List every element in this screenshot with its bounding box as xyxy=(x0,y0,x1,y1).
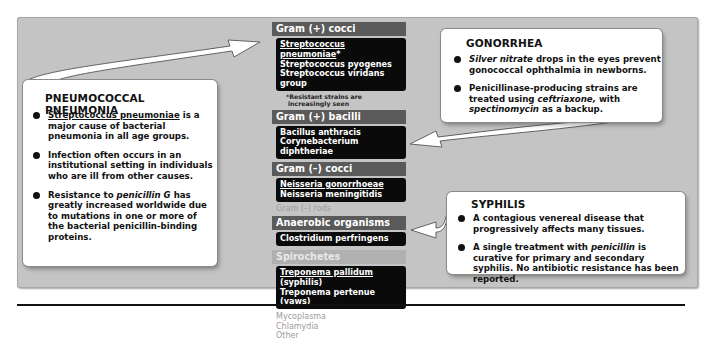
bottom-rule xyxy=(17,304,685,306)
group-header-gram-neg-cocci: Gram (–) cocci xyxy=(272,162,406,176)
organism-item: Corynebacterium diphtheriae xyxy=(280,137,402,157)
organism-box-gram-pos-bacilli: Bacillus anthracis Corynebacterium dipht… xyxy=(276,126,406,159)
drug-name: penicillin xyxy=(591,242,635,252)
group-header-spirochetes: Spirochetes xyxy=(272,250,406,264)
callout-gonorrhea: GONORRHEA Silver nitrate drops in the ey… xyxy=(441,29,662,122)
bullet-text: A contagious venereal disease that progr… xyxy=(473,213,645,234)
bullet-text: Infection often occurs in an institution… xyxy=(48,150,213,181)
drug-name: penicillin G xyxy=(117,190,171,200)
organism-column: Gram (+) cocci Streptococcus pneumoniae*… xyxy=(272,22,406,341)
organism-box-gram-neg-cocci: Neisseria gonorrhoeae Neisseria meningit… xyxy=(276,178,406,202)
callout-title: GONORRHEA xyxy=(466,37,542,49)
bullet-item: Resistance to penicillin G has greatly i… xyxy=(31,190,213,243)
asterisk: * xyxy=(336,49,340,59)
drug-name: ceftriaxone, xyxy=(538,94,596,104)
bullet-item: A contagious venereal disease that progr… xyxy=(456,213,684,234)
bullet-text: as a backup. xyxy=(539,104,603,114)
organism-item: Streptococcus viridans group xyxy=(280,69,402,89)
group-other: Other xyxy=(276,331,406,341)
callout-pneumococcal-pneumonia: PNEUMOCOCCAL PNEUMONIA Streptococcus pne… xyxy=(23,80,217,266)
group-header-gram-pos-cocci: Gram (+) cocci xyxy=(272,22,406,36)
drug-name: spectinomycin xyxy=(469,104,539,114)
bullet-list: Silver nitrate drops in the eyes prevent… xyxy=(452,54,662,115)
organism-name: Treponema pallidum xyxy=(280,267,373,277)
organism-item: Clostridium perfringens xyxy=(280,234,402,244)
group-chlamydia: Chlamydia xyxy=(276,322,406,332)
bullet-item: Penicillinase-producing strains are trea… xyxy=(452,83,662,115)
group-gram-neg-rods: Gram (–) rods xyxy=(276,204,406,214)
group-mycoplasma: Mycoplasma xyxy=(276,312,406,322)
organism-box-gram-pos-cocci: Streptococcus pneumoniae* Streptococcus … xyxy=(276,38,406,91)
bullet-item: Streptococcus pneumoniae is a major caus… xyxy=(31,110,213,142)
group-header-gram-pos-bacilli: Gram (+) bacilli xyxy=(272,110,406,124)
callout-title: SYPHILIS xyxy=(471,198,526,210)
bullet-item: Silver nitrate drops in the eyes prevent… xyxy=(452,54,662,75)
callout-syphilis: SYPHILIS A contagious venereal disease t… xyxy=(447,192,685,274)
bullet-text: A single treatment with xyxy=(473,242,591,252)
organism-name: Streptococcus pneumoniae xyxy=(48,110,180,120)
group-header-anaerobic: Anaerobic organisms xyxy=(272,216,406,230)
other-groups: Mycoplasma Chlamydia Other xyxy=(272,312,406,341)
bullet-item: Infection often occurs in an institution… xyxy=(31,150,213,182)
resistance-note: *Resistant strains are increasingly seen xyxy=(286,94,406,108)
organism-suffix: (syphilis) xyxy=(280,277,322,287)
note-line: increasingly seen xyxy=(288,101,406,108)
organism-item: Treponema pallidum (syphilis) xyxy=(280,268,402,288)
organism-box-spirochetes: Treponema pallidum (syphilis) Treponema … xyxy=(276,266,406,309)
organism-item: Streptococcus pneumoniae* xyxy=(280,40,402,60)
organism-box-anaerobic: Clostridium perfringens xyxy=(276,232,406,246)
bullet-text: Resistance to xyxy=(48,190,117,200)
bullet-item: A single treatment with penicillin is cu… xyxy=(456,242,684,284)
bullet-list: A contagious venereal disease that progr… xyxy=(456,213,684,285)
drug-name: Silver nitrate xyxy=(469,54,533,64)
organism-item: Neisseria meningitidis xyxy=(280,190,402,200)
bullet-text: with xyxy=(596,94,620,104)
bullet-list: Streptococcus pneumoniae is a major caus… xyxy=(31,110,213,243)
